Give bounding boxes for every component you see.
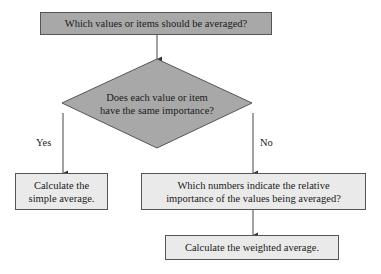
weighted-average-box: Calculate the weighted average. bbox=[165, 235, 339, 260]
simple-line-2: simple average. bbox=[29, 192, 95, 205]
start-text: Which values or items should be averaged… bbox=[65, 17, 248, 30]
weighted-text: Calculate the weighted average. bbox=[185, 241, 319, 254]
flowchart: Which values or items should be averaged… bbox=[0, 0, 381, 274]
decision-line-2: have the same importance? bbox=[87, 104, 227, 117]
decision-text: Does each value or item have the same im… bbox=[87, 91, 227, 117]
yes-label: Yes bbox=[36, 137, 51, 148]
start-box: Which values or items should be averaged… bbox=[40, 12, 272, 35]
decision-line-1: Does each value or item bbox=[87, 91, 227, 104]
simple-average-box: Calculate the simple average. bbox=[15, 173, 108, 210]
relative-importance-box: Which numbers indicate the relative impo… bbox=[141, 173, 366, 210]
relative-line-2: importance of the values being averaged? bbox=[166, 192, 341, 205]
no-label: No bbox=[260, 137, 273, 148]
simple-line-1: Calculate the bbox=[34, 179, 89, 192]
relative-line-1: Which numbers indicate the relative bbox=[177, 179, 329, 192]
connectors bbox=[0, 0, 381, 274]
